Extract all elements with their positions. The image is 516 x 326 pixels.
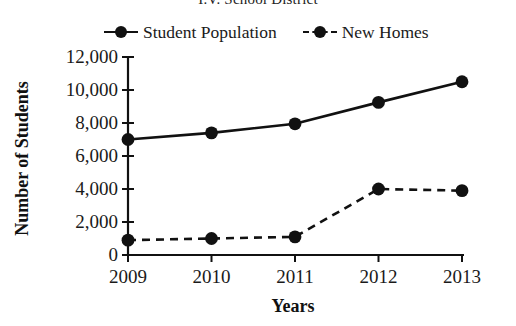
x-axis-tick-label: 2009 bbox=[109, 267, 147, 286]
y-axis-title: Number of Students bbox=[12, 49, 33, 269]
x-axis-tick-labels: 20092010201120122013 bbox=[0, 0, 516, 326]
plot-area: 12,00010,0008,0006,0004,0002,0000 200920… bbox=[0, 0, 516, 326]
x-axis-tick-label: 2010 bbox=[193, 267, 231, 286]
x-axis-tick-label: 2013 bbox=[443, 267, 481, 286]
chart-figure: I.V. School District Student Population … bbox=[0, 0, 516, 326]
x-axis-tick-label: 2011 bbox=[276, 267, 313, 286]
x-axis-title: Years bbox=[118, 296, 468, 317]
x-axis-tick-label: 2012 bbox=[360, 267, 398, 286]
